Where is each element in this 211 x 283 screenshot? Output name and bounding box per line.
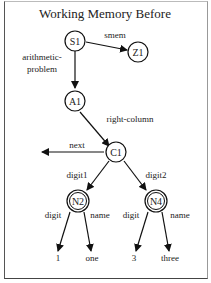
node-z1-label: Z1 [132, 47, 143, 58]
value-n2-name: one [86, 253, 99, 263]
label-smem: smem [104, 30, 126, 40]
label-n4-digit: digit [123, 210, 140, 220]
node-n4-label: N4 [150, 196, 162, 207]
label-digit2: digit2 [145, 170, 166, 180]
node-s1-label: S1 [70, 36, 81, 47]
edge-digit2 [124, 161, 146, 190]
diagram-title: Working Memory Before [39, 6, 171, 21]
node-c1-label: C1 [110, 147, 122, 158]
edge-digit1 [87, 161, 109, 190]
label-right-column: right-column [107, 114, 154, 124]
label-n2-name: name [90, 210, 110, 220]
diagram-frame: Working Memory Before smem arithmetic- p… [0, 0, 211, 283]
node-a1-label: A1 [69, 96, 81, 107]
label-arithmetic: arithmetic- [22, 52, 61, 62]
working-memory-graph: Working Memory Before smem arithmetic- p… [0, 0, 211, 283]
node-n2-label: N2 [72, 196, 84, 207]
label-problem: problem [27, 64, 57, 74]
label-n4-name: name [170, 210, 190, 220]
value-n2-digit: 1 [56, 253, 61, 263]
label-digit1: digit1 [66, 170, 87, 180]
edge-n4-name [162, 212, 169, 251]
label-next: next [69, 140, 85, 150]
value-n4-digit: 3 [132, 253, 137, 263]
label-n2-digit: digit [45, 210, 62, 220]
value-n4-name: three [161, 253, 179, 263]
edge-smem [86, 42, 127, 50]
